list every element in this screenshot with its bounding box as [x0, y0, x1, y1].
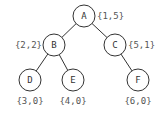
node-f-label: F — [135, 75, 140, 85]
node-c-annotation: {5,1} — [128, 40, 155, 50]
node-e-annotation: {4,0} — [59, 96, 86, 106]
node-d: D {3,0} — [16, 69, 43, 106]
node-b-annotation: {2,2} — [15, 40, 42, 50]
node-d-annotation: {3,0} — [16, 96, 43, 106]
node-c-label: C — [112, 40, 117, 50]
node-d-label: D — [27, 75, 32, 85]
node-b-label: B — [51, 40, 56, 50]
node-a: A {1,5} — [73, 5, 124, 27]
node-a-label: A — [81, 11, 87, 21]
node-f-annotation: {6,0} — [124, 96, 151, 106]
tree-diagram: A {1,5} B {2,2} C {5,1} D {3,0} E {4,0} … — [0, 0, 167, 113]
node-e-label: E — [70, 75, 75, 85]
node-b: B {2,2} — [15, 34, 65, 56]
node-c: C {5,1} — [104, 34, 155, 56]
node-f: F {6,0} — [124, 69, 151, 106]
node-e: E {4,0} — [59, 69, 86, 106]
node-a-annotation: {1,5} — [97, 11, 124, 21]
